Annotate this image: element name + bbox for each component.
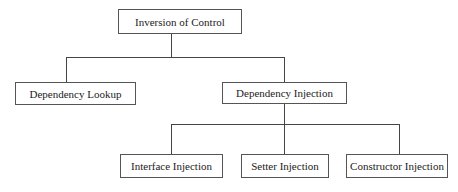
node-constructor-injection: Constructor Injection bbox=[346, 154, 448, 178]
connector-to-injection bbox=[284, 57, 285, 82]
node-label: Interface Injection bbox=[131, 160, 212, 172]
connector-to-lookup bbox=[66, 57, 67, 82]
connector-to-constructor bbox=[399, 124, 400, 154]
node-label: Dependency Lookup bbox=[30, 88, 122, 100]
connector-level1-bar bbox=[66, 57, 285, 58]
connector-to-interface bbox=[171, 124, 172, 154]
node-interface-injection: Interface Injection bbox=[120, 154, 223, 178]
node-label: Dependency Injection bbox=[236, 87, 333, 99]
node-setter-injection: Setter Injection bbox=[241, 154, 329, 178]
connector-injection-down bbox=[284, 104, 285, 124]
node-dependency-injection: Dependency Injection bbox=[222, 82, 347, 104]
connector-root-down bbox=[171, 34, 172, 57]
node-dependency-lookup: Dependency Lookup bbox=[15, 82, 136, 105]
node-label: Inversion of Control bbox=[135, 16, 225, 28]
node-inversion-of-control: Inversion of Control bbox=[118, 9, 242, 34]
node-label: Constructor Injection bbox=[350, 160, 444, 172]
connector-to-setter bbox=[284, 124, 285, 154]
node-label: Setter Injection bbox=[251, 160, 319, 172]
connector-level2-bar bbox=[171, 124, 400, 125]
